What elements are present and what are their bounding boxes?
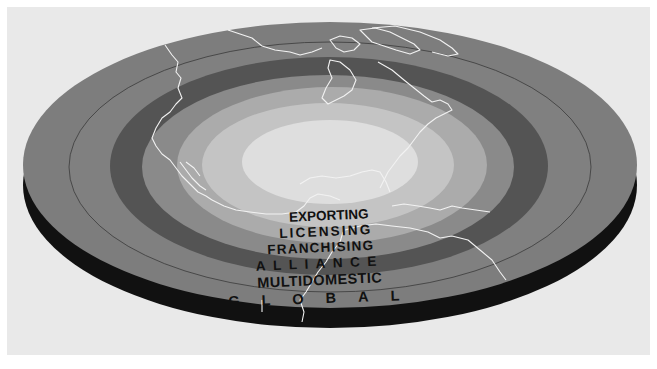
center-home-market (242, 120, 418, 204)
market-entry-disk-diagram: EXPORTING LICENSING FRANCHISING ALLIANCE… (0, 0, 657, 369)
